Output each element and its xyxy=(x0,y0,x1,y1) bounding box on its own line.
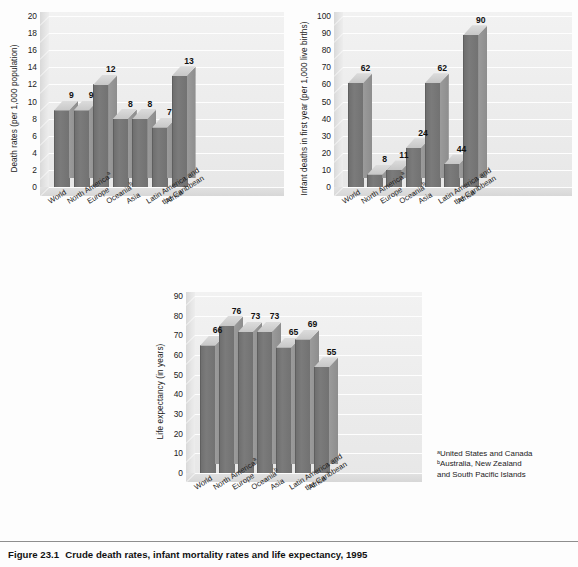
bar xyxy=(348,83,363,187)
bar-value-label: 13 xyxy=(184,56,194,66)
y-tick-label: 12 xyxy=(28,79,37,89)
bar-front-face xyxy=(54,110,70,187)
bar-value-label: 11 xyxy=(399,150,408,160)
gridline xyxy=(343,84,572,85)
bar-front-face xyxy=(463,35,479,187)
bar xyxy=(219,326,234,474)
bar xyxy=(276,347,291,473)
plot-area-infant-deaths xyxy=(334,12,572,196)
caption-number: Figure 23.1 xyxy=(8,549,59,560)
y-tick-label: 20 xyxy=(322,148,331,158)
gridline xyxy=(49,84,284,85)
y-tick-label: 70 xyxy=(322,62,331,72)
bar-side-face xyxy=(363,74,372,178)
y-tick-label: 90 xyxy=(174,291,183,301)
y-tick-label: 20 xyxy=(28,11,37,21)
bar-front-face xyxy=(238,331,254,473)
bar xyxy=(113,119,128,187)
bar-value-label: 8 xyxy=(148,99,153,109)
bar-value-label: 69 xyxy=(308,319,318,329)
bar-value-label: 7 xyxy=(167,107,172,117)
y-tick-label: 30 xyxy=(174,409,183,419)
y-tick-label: 0 xyxy=(178,468,183,478)
bar-side-face xyxy=(329,358,338,464)
gridline xyxy=(49,16,284,17)
chart-death-rates: Death rates (per 1,000 population) 02468… xyxy=(4,8,286,258)
bar xyxy=(295,339,310,473)
figure-caption: Figure 23.1Crude death rates, infant mor… xyxy=(8,549,578,560)
gridline xyxy=(343,136,572,137)
caption-text: Crude death rates, infant mortality rate… xyxy=(65,549,367,560)
bar xyxy=(172,76,187,187)
y-tick-label: 60 xyxy=(322,79,331,89)
bar-front-face xyxy=(219,326,235,474)
y-tick-label: 2 xyxy=(32,165,37,175)
y-tick-label: 4 xyxy=(32,148,37,158)
y-tick-label: 10 xyxy=(322,165,331,175)
bar-front-face xyxy=(132,119,148,187)
gridline xyxy=(343,67,572,68)
bar xyxy=(132,119,147,187)
gridline xyxy=(49,67,284,68)
bar xyxy=(314,367,329,473)
caption-divider xyxy=(0,541,578,542)
y-tick-label: 0 xyxy=(326,182,331,192)
y-tick-label: 10 xyxy=(174,448,183,458)
bar-side-face xyxy=(478,26,487,178)
bar xyxy=(257,331,272,473)
bar-value-label: 8 xyxy=(128,99,133,109)
y-tick-label: 80 xyxy=(174,311,183,321)
bar xyxy=(74,110,89,187)
y-tick-label: 10 xyxy=(28,97,37,107)
bar-front-face xyxy=(172,76,188,187)
bar-value-label: 62 xyxy=(361,63,371,73)
y-tick-label: 8 xyxy=(32,114,37,124)
gridline xyxy=(49,33,284,34)
bar-value-label: 44 xyxy=(457,144,467,154)
bar-front-face xyxy=(295,339,311,473)
bar-front-face xyxy=(314,367,330,473)
bar-value-label: 55 xyxy=(327,347,337,357)
bar-value-label: 8 xyxy=(382,154,387,164)
y-tick-label: 18 xyxy=(28,28,37,38)
y-axis-label-death-rates: Death rates (per 1,000 population) xyxy=(10,44,19,172)
bar-value-label: 73 xyxy=(251,311,261,321)
y-tick-label: 20 xyxy=(174,429,183,439)
gridline xyxy=(343,33,572,34)
y-tick-label: 16 xyxy=(28,45,37,55)
footnote-b-line1: ᵇAustralia, New Zealand xyxy=(437,459,533,469)
bar-value-label: 76 xyxy=(232,306,242,316)
gridline xyxy=(343,16,572,17)
bar-value-label: 9 xyxy=(69,90,74,100)
footnotes: ᵃUnited States and Canada ᵇAustralia, Ne… xyxy=(437,449,533,480)
bar xyxy=(463,35,478,187)
bar-value-label: 9 xyxy=(89,90,94,100)
bar-value-label: 65 xyxy=(289,327,299,337)
y-tick-label: 50 xyxy=(174,370,183,380)
footnote-a: ᵃUnited States and Canada xyxy=(437,449,533,459)
bar-front-face xyxy=(276,347,292,473)
bar-value-label: 12 xyxy=(106,64,116,74)
y-tick-label: 14 xyxy=(28,62,37,72)
bar-value-label: 73 xyxy=(270,311,280,321)
chart-infant-deaths: Infant deaths in first year (per 1,000 l… xyxy=(294,8,576,258)
bar-front-face xyxy=(200,345,216,473)
figure-container: Death rates (per 1,000 population) 02468… xyxy=(0,0,578,567)
bar-front-face xyxy=(74,110,90,187)
bar-value-label: 62 xyxy=(438,63,448,73)
y-tick-label: 6 xyxy=(32,131,37,141)
bar-value-label: 90 xyxy=(476,15,486,25)
y-tick-label: 60 xyxy=(174,350,183,360)
plot-area-life-expectancy xyxy=(186,292,422,482)
y-tick-label: 100 xyxy=(317,11,331,21)
bar xyxy=(54,110,69,187)
y-tick-label: 40 xyxy=(174,389,183,399)
bar-value-label: 24 xyxy=(418,128,428,138)
gridline xyxy=(343,50,572,51)
y-tick-label: 80 xyxy=(322,45,331,55)
y-tick-label: 50 xyxy=(322,97,331,107)
bar-front-face xyxy=(257,331,273,473)
bar xyxy=(200,345,215,473)
y-tick-label: 40 xyxy=(322,114,331,124)
gridline xyxy=(343,119,572,120)
